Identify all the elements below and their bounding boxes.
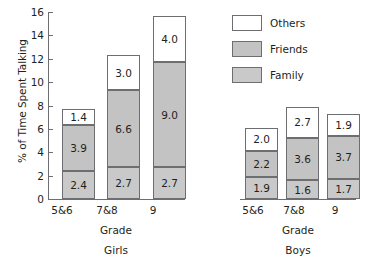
girls-segment-family-9: 2.7 <box>153 167 186 199</box>
legend-label-family: Family <box>270 69 304 81</box>
boys-x-label-1: 7&8 <box>272 204 316 216</box>
y-axis-tick-label-14: 14 <box>0 30 44 40</box>
boys-segment-family-7and8: 1.6 <box>286 180 319 199</box>
legend-item-friends: Friends <box>232 38 308 59</box>
y-axis-tick-6 <box>48 129 53 130</box>
y-axis-tick-text: 4 <box>22 147 44 157</box>
y-axis-tick-2 <box>48 176 53 177</box>
y-axis-tick-label-6: 6 <box>0 124 44 134</box>
legend-item-family: Family <box>232 64 308 85</box>
boys-bar-9: 1.73.71.9 <box>327 12 360 199</box>
boys-x-label-0: 5&6 <box>231 204 275 216</box>
y-axis-tick-text: 8 <box>22 101 44 111</box>
y-axis-tick-4 <box>48 152 53 153</box>
boys-segment-family-9: 1.7 <box>327 179 360 199</box>
y-axis-tick-label-4: 4 <box>0 147 44 157</box>
girls-segment-friends-9: 9.0 <box>153 62 186 167</box>
boys-segment-friends-9: 3.7 <box>327 136 360 179</box>
stacked-bar-chart: % of Time Spent Talking 1614121086420 2.… <box>0 0 369 264</box>
girls-bar-5and6: 2.43.91.4 <box>62 12 95 199</box>
girls-x-label-2: 9 <box>131 204 175 216</box>
girls-bar-9: 2.79.04.0 <box>153 12 186 199</box>
girls-x-label-0: 5&6 <box>40 204 84 216</box>
y-axis-tick-text: 12 <box>22 54 44 64</box>
boys-panel-caption: Boys <box>228 244 368 256</box>
girls-segment-friends-7and8: 6.6 <box>107 90 140 167</box>
legend-swatch-friends-icon <box>232 41 262 57</box>
legend-label-others: Others <box>270 17 305 29</box>
girls-baseline <box>48 199 185 200</box>
y-axis-tick-14 <box>48 35 53 36</box>
girls-segment-others-5and6: 1.4 <box>62 109 95 125</box>
girls-segment-family-7and8: 2.7 <box>107 167 140 199</box>
y-axis-tick-label-0: 0 <box>0 194 44 204</box>
y-axis-tick-text: 0 <box>22 194 44 204</box>
y-axis-tick-text: 16 <box>22 7 44 17</box>
girls-panel-caption: Girls <box>46 244 186 256</box>
y-axis-tick-label-16: 16 <box>0 7 44 17</box>
girls-axis-title: Grade <box>46 224 186 236</box>
y-axis-tick-text: 10 <box>22 77 44 87</box>
legend-swatch-others-icon <box>232 15 262 31</box>
boys-segment-others-5and6: 2.0 <box>245 128 278 151</box>
boys-segment-friends-7and8: 3.6 <box>286 138 319 180</box>
y-axis-tick-8 <box>48 106 53 107</box>
y-axis-tick-text: 6 <box>22 124 44 134</box>
boys-segment-others-9: 1.9 <box>327 114 360 136</box>
y-axis-tick-label-10: 10 <box>0 77 44 87</box>
girls-segment-others-9: 4.0 <box>153 16 186 63</box>
y-axis-tick-label-2: 2 <box>0 171 44 181</box>
boys-segment-friends-5and6: 2.2 <box>245 151 278 177</box>
legend-label-friends: Friends <box>270 43 308 55</box>
y-axis-tick-text: 2 <box>22 171 44 181</box>
girls-x-label-1: 7&8 <box>85 204 129 216</box>
boys-segment-others-7and8: 2.7 <box>286 107 319 139</box>
girls-segment-friends-5and6: 3.9 <box>62 125 95 171</box>
boys-x-label-2: 9 <box>313 204 357 216</box>
girls-bar-7and8: 2.76.63.0 <box>107 12 140 199</box>
girls-segment-family-5and6: 2.4 <box>62 171 95 199</box>
y-axis-tick-text: 14 <box>22 30 44 40</box>
boys-baseline <box>240 199 356 200</box>
y-axis-tick-label-8: 8 <box>0 101 44 111</box>
legend-item-others: Others <box>232 12 308 33</box>
y-axis-tick-12 <box>48 59 53 60</box>
legend-swatch-family-icon <box>232 67 262 83</box>
y-axis-tick-16 <box>48 12 53 13</box>
legend: Others Friends Family <box>232 12 308 90</box>
y-axis-tick-10 <box>48 82 53 83</box>
girls-segment-others-7and8: 3.0 <box>107 55 140 90</box>
boys-axis-title: Grade <box>228 224 368 236</box>
y-axis-tick-label-12: 12 <box>0 54 44 64</box>
boys-segment-family-5and6: 1.9 <box>245 177 278 199</box>
